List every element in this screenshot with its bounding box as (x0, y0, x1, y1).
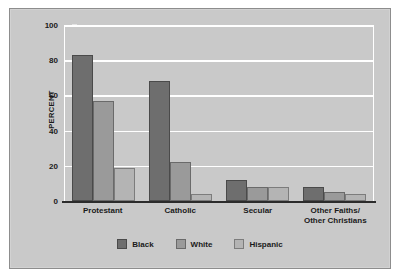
y-tick-label: 60 (24, 91, 58, 100)
bar (72, 55, 93, 201)
legend-item[interactable]: Hispanic (234, 239, 282, 249)
x-tick-label: Other Faiths/ Other Christians (297, 206, 375, 226)
legend-label: Hispanic (249, 240, 282, 249)
legend-swatch-icon (234, 239, 244, 249)
bar (170, 162, 191, 201)
bar-group (296, 25, 373, 201)
bar (247, 187, 268, 201)
bar-groups (65, 25, 373, 201)
x-axis-line (62, 201, 376, 203)
y-tick-label: 40 (24, 126, 58, 135)
chart-figure: PERCENT 100 80 60 40 20 0 ProtestantCath… (9, 8, 391, 269)
bar (93, 101, 114, 201)
bar (303, 187, 324, 201)
bar (268, 187, 289, 201)
x-axis-tick-labels: ProtestantCatholicSecularOther Faiths/ O… (64, 206, 374, 226)
bar-group (142, 25, 219, 201)
bar (324, 192, 345, 201)
y-tick-label: 20 (24, 161, 58, 170)
plot-area (64, 25, 374, 201)
legend-label: White (191, 240, 213, 249)
legend-swatch-icon (176, 239, 186, 249)
bar (345, 194, 366, 201)
y-tick-label: 0 (24, 197, 58, 206)
x-tick-label: Catholic (142, 206, 220, 226)
bar-group (65, 25, 142, 201)
legend-swatch-icon (117, 239, 127, 249)
bar (114, 168, 135, 201)
legend-item[interactable]: White (176, 239, 213, 249)
bar (226, 180, 247, 201)
y-tick-label: 80 (24, 56, 58, 65)
bar (149, 81, 170, 201)
bar-group (219, 25, 296, 201)
y-tick-label: 100 (24, 21, 58, 30)
x-tick-label: Secular (219, 206, 297, 226)
bar (191, 194, 212, 201)
legend-item[interactable]: Black (117, 239, 153, 249)
chart-legend: BlackWhiteHispanic (10, 239, 390, 249)
x-tick-label: Protestant (64, 206, 142, 226)
legend-label: Black (132, 240, 153, 249)
y-axis-tick-labels: 100 80 60 40 20 0 (24, 25, 58, 201)
